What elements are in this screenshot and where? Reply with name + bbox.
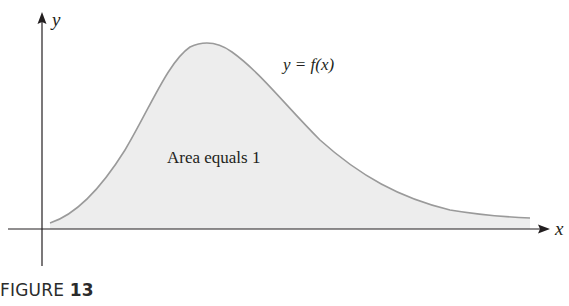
caption-number: 13: [70, 280, 94, 300]
curve-label: y = f(x): [281, 55, 334, 74]
caption-prefix: FIGURE: [0, 280, 64, 300]
area-label: Area equals 1: [167, 148, 260, 167]
x-axis-label: x: [554, 218, 564, 239]
y-axis-label: y: [50, 9, 61, 30]
figure-caption: FIGURE 13: [0, 280, 94, 300]
density-diagram: y x y = f(x) Area equals 1: [0, 0, 569, 306]
